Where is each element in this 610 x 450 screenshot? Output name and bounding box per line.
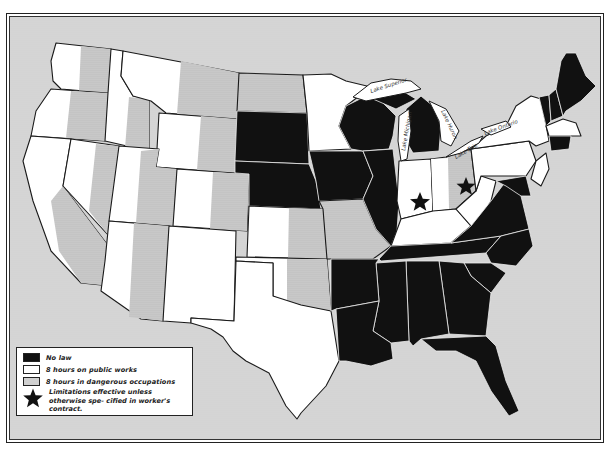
legend-item-no-law: No law: [23, 352, 186, 363]
state-iowa: [309, 151, 373, 201]
map-frame: Lake Superior Lake Michigan Lake Huron L…: [9, 16, 601, 440]
legend-item-star: Limitations effective unless otherwise s…: [23, 388, 186, 414]
star-icon: [23, 388, 43, 408]
legend-label: 8 hours on public works: [46, 366, 137, 374]
map-legend: No law 8 hours on public works 8 hours i…: [16, 347, 193, 416]
swatch-black-icon: [23, 353, 40, 362]
legend-label: No law: [46, 354, 72, 362]
state-new-mexico: [163, 226, 236, 323]
legend-label: 8 hours in dangerous occupations: [46, 378, 175, 386]
swatch-dotted-icon: [23, 377, 40, 386]
legend-item-dangerous-occupations: 8 hours in dangerous occupations: [23, 376, 186, 387]
state-south-dakota: [235, 111, 309, 164]
state-indiana: [397, 159, 433, 219]
swatch-white-icon: [23, 365, 40, 374]
legend-star-label: Limitations effective unless otherwise s…: [49, 388, 179, 414]
state-north-dakota: [237, 73, 307, 113]
state-connecticut: [549, 136, 571, 151]
legend-item-public-works: 8 hours on public works: [23, 364, 186, 375]
